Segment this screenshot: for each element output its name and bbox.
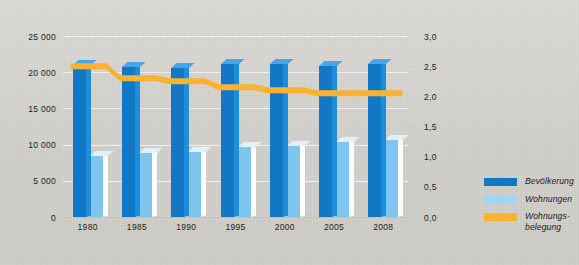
chart-container: 25 000 20 000 15 000 10 000 5 000 0 3,0 …	[0, 0, 579, 265]
bar-bevoelkerung-2000-side-face	[283, 63, 288, 217]
y-axis-right-tick-1-5	[409, 126, 418, 127]
x-axis-label-1990: 1990	[162, 222, 211, 232]
bar-wohnungen-1980-front-face	[90, 156, 103, 217]
bar-bevoelkerung-1995-front-face	[221, 64, 234, 217]
gridline-baseline	[63, 217, 408, 218]
bar-bevoelkerung-1980[interactable]	[73, 65, 86, 217]
bar-bevoelkerung-1990-side-face	[184, 66, 189, 217]
bar-bevoelkerung-1995-side-face	[234, 62, 239, 217]
y-axis-right-label-2-5: 2,5	[424, 62, 458, 72]
bar-bevoelkerung-2000[interactable]	[270, 64, 283, 217]
bar-bevoelkerung-1985-side-face	[135, 66, 140, 217]
bar-bevoelkerung-2008[interactable]	[368, 64, 381, 217]
y-axis-right-label-1-5: 1,5	[424, 122, 458, 132]
bar-bevoelkerung-1990-front-face	[171, 68, 184, 217]
legend-item-wohnungen[interactable]: Wohnungen	[484, 194, 579, 205]
y-axis-right-tick-2-0	[409, 96, 418, 97]
legend-swatch-bevoelkerung	[484, 178, 517, 186]
bars-layer	[63, 36, 408, 217]
bar-bevoelkerung-1985-front-face	[122, 67, 135, 217]
bar-wohnungen-2000-side-face	[300, 145, 305, 217]
bar-wohnungen-1995-side-face	[251, 145, 256, 217]
bar-wohnungen-1995-front-face	[238, 147, 251, 217]
bar-bevoelkerung-1985[interactable]	[122, 67, 135, 217]
bar-wohnungen-1980-side-face	[103, 155, 108, 217]
bar-wohnungen-2005-side-face	[349, 141, 354, 217]
legend-label-wohnungsbelegung-line2: belegung	[525, 222, 561, 232]
bar-wohnungen-1985[interactable]	[139, 153, 152, 217]
y-axis-left-label-10000: 10 000	[8, 140, 56, 150]
y-axis-right-label-2-0: 2,0	[424, 92, 458, 102]
y-axis-left-label-15000: 15 000	[8, 104, 56, 114]
x-axis-label-2000: 2000	[260, 222, 309, 232]
bar-wohnungen-1990-front-face	[188, 152, 201, 217]
bar-wohnungen-2000-front-face	[287, 146, 300, 217]
bar-bevoelkerung-2005-side-face	[332, 64, 337, 217]
bar-wohnungen-2008-front-face	[385, 140, 398, 217]
legend-item-bevoelkerung[interactable]: Bevölkerung	[484, 176, 579, 187]
bar-bevoelkerung-2005-front-face	[319, 66, 332, 217]
bar-wohnungen-1995[interactable]	[238, 147, 251, 217]
x-axis-label-1980: 1980	[63, 222, 112, 232]
bar-wohnungen-2005[interactable]	[336, 142, 349, 217]
bar-wohnungen-1980[interactable]	[90, 156, 103, 217]
legend-item-wohnungsbelegung[interactable]: Wohnungs-belegung	[484, 211, 579, 232]
y-axis-right-tick-1-0	[409, 157, 418, 158]
y-axis-left-label-20000: 20 000	[8, 68, 56, 78]
bar-bevoelkerung-2008-side-face	[381, 62, 386, 217]
bar-bevoelkerung-1995[interactable]	[221, 64, 234, 217]
legend-label-bevoelkerung: Bevölkerung	[525, 176, 574, 187]
bar-bevoelkerung-1980-side-face	[86, 64, 91, 217]
y-axis-right-label-0-5: 0,5	[424, 182, 458, 192]
y-axis-left-label-5000: 5 000	[8, 176, 56, 186]
bar-wohnungen-2008-side-face	[398, 138, 403, 217]
y-axis-left-label-0: 0	[8, 213, 56, 223]
bar-bevoelkerung-2000-front-face	[270, 64, 283, 217]
y-axis-right-label-3-0: 3,0	[424, 32, 458, 42]
y-axis-left-label-25000: 25 000	[8, 32, 56, 42]
bar-wohnungen-2000[interactable]	[287, 146, 300, 217]
legend-label-wohnungen: Wohnungen	[525, 194, 572, 205]
bar-bevoelkerung-2005[interactable]	[319, 66, 332, 217]
legend-swatch-wohnungen	[484, 196, 517, 204]
bar-bevoelkerung-2008-front-face	[368, 64, 381, 217]
bar-wohnungen-1985-side-face	[152, 152, 157, 217]
bar-wohnungen-1985-front-face	[139, 153, 152, 217]
bar-wohnungen-1990[interactable]	[188, 152, 201, 217]
x-axis-label-1995: 1995	[211, 222, 260, 232]
bar-wohnungen-1990-side-face	[201, 150, 206, 217]
legend: Bevölkerung Wohnungen Wohnungs-belegung	[484, 176, 579, 239]
y-axis-right-label-1-0: 1,0	[424, 152, 458, 162]
legend-label-wohnungsbelegung: Wohnungs-belegung	[525, 211, 570, 232]
legend-swatch-wohnungsbelegung	[484, 213, 517, 221]
x-axis-label-1985: 1985	[112, 222, 161, 232]
bar-wohnungen-2008[interactable]	[385, 140, 398, 217]
bar-bevoelkerung-1980-front-face	[73, 65, 86, 217]
x-axis-label-2008: 2008	[359, 222, 408, 232]
x-axis-label-2005: 2005	[309, 222, 358, 232]
y-axis-right-tick-2-5	[409, 66, 418, 67]
bar-bevoelkerung-1990[interactable]	[171, 68, 184, 217]
y-axis-right-label-0-0: 0,0	[424, 213, 458, 223]
legend-label-wohnungsbelegung-line1: Wohnungs-	[525, 211, 570, 221]
bar-wohnungen-2005-front-face	[336, 142, 349, 217]
